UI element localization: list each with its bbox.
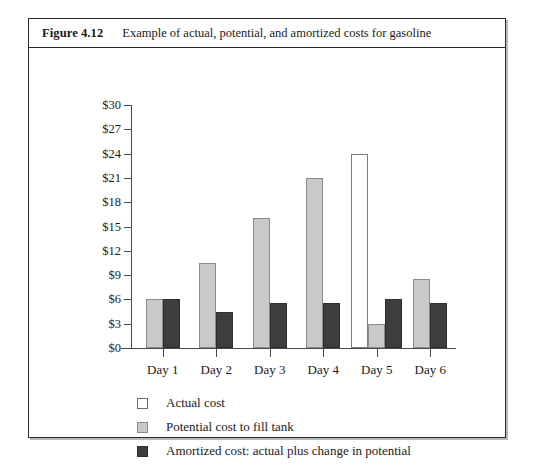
- bar-amortized-cost: [430, 303, 447, 348]
- y-axis-tick-label: $27: [65, 123, 121, 136]
- x-axis-line: [121, 348, 456, 349]
- x-axis-tick: [270, 348, 271, 357]
- x-axis-tick: [216, 348, 217, 357]
- bar-amortized-cost: [385, 299, 402, 348]
- legend-swatch-amortized: [137, 446, 148, 457]
- bar-potential-cost: [253, 218, 270, 348]
- figure-caption-bar: Figure 4.12 Example of actual, potential…: [29, 19, 505, 48]
- legend-item-label: Potential cost to fill tank: [166, 419, 294, 435]
- bar-amortized-cost: [216, 312, 233, 348]
- figure-caption-text: Example of actual, potential, and amorti…: [122, 26, 431, 41]
- x-axis-tick: [377, 348, 378, 357]
- y-axis-tick: [124, 299, 132, 300]
- y-axis-tick-label: $9: [65, 269, 121, 282]
- y-axis-tick-label: $0: [65, 342, 121, 355]
- figure-frame: Figure 4.12 Example of actual, potential…: [28, 18, 506, 438]
- bar-potential-cost: [368, 324, 385, 348]
- bar-potential-cost: [413, 279, 430, 348]
- figure-number: Figure 4.12: [42, 26, 103, 41]
- legend-item: Potential cost to fill tank: [137, 415, 497, 439]
- y-axis-tick: [124, 275, 132, 276]
- y-axis-tick-label: $3: [65, 318, 121, 331]
- x-axis-tick: [163, 348, 164, 357]
- legend-item-label: Amortized cost: actual plus change in po…: [166, 443, 411, 459]
- x-axis-tick-label: Day 6: [395, 362, 465, 378]
- y-axis-tick: [124, 324, 132, 325]
- x-axis-tick: [323, 348, 324, 357]
- legend-swatch-potential: [137, 422, 148, 433]
- y-axis-tick-label: $24: [65, 148, 121, 161]
- chart-legend: Actual costPotential cost to fill tankAm…: [137, 391, 497, 463]
- legend-item: Actual cost: [137, 391, 497, 415]
- bar-amortized-cost: [270, 303, 287, 348]
- y-axis-tick: [124, 178, 132, 179]
- bar-chart: $30$27$24$21$18$15$12$9$6$3$0 Day 1Day 2…: [29, 48, 507, 378]
- bar-potential-cost: [306, 178, 323, 348]
- bar-amortized-cost: [323, 303, 340, 348]
- y-axis-tick: [124, 129, 132, 130]
- bar-amortized-cost: [163, 299, 180, 348]
- y-axis-tick-label: $21: [65, 172, 121, 185]
- y-axis-tick-label: $15: [65, 221, 121, 234]
- x-axis-tick: [430, 348, 431, 357]
- y-axis-tick: [124, 154, 132, 155]
- y-axis-tick: [124, 348, 132, 349]
- y-axis-tick-label: $6: [65, 293, 121, 306]
- y-axis-tick-label: $12: [65, 245, 121, 258]
- figure-body: $30$27$24$21$18$15$12$9$6$3$0 Day 1Day 2…: [29, 48, 505, 437]
- y-axis-tick: [124, 105, 132, 106]
- y-axis-tick: [124, 202, 132, 203]
- y-axis-tick: [124, 251, 132, 252]
- bar-actual-cost: [351, 154, 368, 348]
- bar-potential-cost: [199, 263, 216, 348]
- y-axis-tick: [124, 227, 132, 228]
- legend-item: Amortized cost: actual plus change in po…: [137, 439, 497, 463]
- bar-potential-cost: [146, 299, 163, 348]
- y-axis-tick-label: $30: [65, 99, 121, 112]
- y-axis-tick-label: $18: [65, 196, 121, 209]
- legend-item-label: Actual cost: [166, 395, 225, 411]
- legend-swatch-actual: [137, 398, 148, 409]
